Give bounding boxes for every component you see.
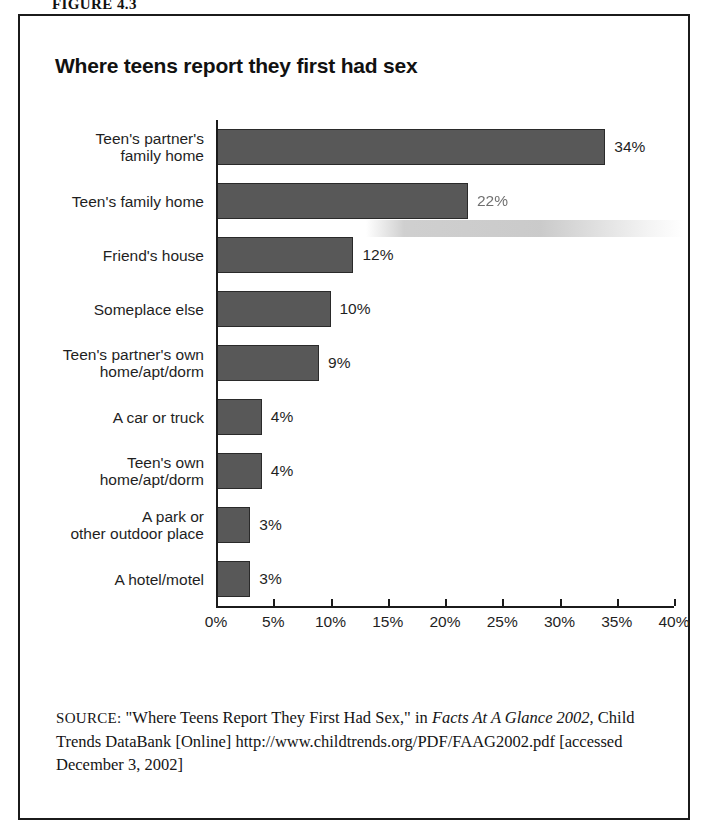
bar-value-label: 10% (340, 300, 371, 318)
y-axis-line (216, 120, 218, 606)
x-axis-line (216, 606, 674, 608)
source-note: SOURCE: "Where Teens Report They First H… (56, 706, 666, 776)
bar-row: Someplace else10% (34, 282, 674, 336)
bar (216, 291, 331, 327)
bar-category-label: A park or other outdoor place (34, 508, 216, 542)
bar (216, 183, 468, 219)
x-axis-tick-label: 40% (658, 613, 689, 631)
x-axis-tick-label: 35% (601, 613, 632, 631)
bar-category-label: A hotel/motel (34, 571, 216, 588)
bar (216, 453, 262, 489)
bar-chart: Teen's partner's family home34%Teen's fa… (34, 120, 674, 640)
bar (216, 399, 262, 435)
bar-row: A park or other outdoor place3% (34, 498, 674, 552)
x-axis-tick (273, 599, 275, 606)
bar (216, 507, 250, 543)
bar-category-label: A car or truck (34, 409, 216, 426)
x-axis-tick-label: 15% (372, 613, 403, 631)
bar-category-label: Teen's family home (34, 193, 216, 210)
bar-value-label: 34% (614, 138, 645, 156)
x-axis: 0%5%10%15%20%25%30%35%40% (216, 606, 674, 662)
x-axis-tick-label: 30% (544, 613, 575, 631)
x-axis-tick (674, 599, 676, 606)
bar-row: Friend's house12% (34, 228, 674, 282)
bar-value-label: 4% (271, 462, 293, 480)
bar (216, 237, 353, 273)
x-axis-tick-label: 0% (205, 613, 227, 631)
x-axis-tick (502, 599, 504, 606)
bar-value-label: 3% (259, 516, 281, 534)
x-axis-tick-label: 20% (429, 613, 460, 631)
bar-rows: Teen's partner's family home34%Teen's fa… (34, 120, 674, 606)
bar-value-label: 12% (362, 246, 393, 264)
source-italic-title: Facts At A Glance 2002, (432, 708, 594, 727)
bar-row: A car or truck4% (34, 390, 674, 444)
bar-row: Teen's partner's own home/apt/dorm9% (34, 336, 674, 390)
x-axis-tick-label: 25% (487, 613, 518, 631)
bar-row: A hotel/motel3% (34, 552, 674, 606)
source-text-1: "Where Teens Report They First Had Sex,"… (121, 708, 431, 727)
x-axis-tick (445, 599, 447, 606)
x-axis-tick (560, 599, 562, 606)
figure-caption: FIGURE 4.3 (52, 0, 137, 13)
bar-category-label: Teen's partner's family home (34, 130, 216, 164)
chart-title: Where teens report they first had sex (55, 54, 418, 78)
bar-zone: 3% (216, 498, 674, 552)
bar-zone: 9% (216, 336, 674, 390)
bar (216, 561, 250, 597)
bar-zone: 4% (216, 444, 674, 498)
bar-category-label: Teen's own home/apt/dorm (34, 454, 216, 488)
bar-category-label: Friend's house (34, 247, 216, 264)
bar-value-label: 9% (328, 354, 350, 372)
source-label: SOURCE: (56, 710, 121, 726)
bar-row: Teen's family home22% (34, 174, 674, 228)
bar (216, 129, 605, 165)
bar-zone: 12% (216, 228, 674, 282)
bar-zone: 10% (216, 282, 674, 336)
x-axis-tick (617, 599, 619, 606)
bar-zone: 4% (216, 390, 674, 444)
bar-zone: 3% (216, 552, 674, 606)
x-axis-tick-label: 10% (315, 613, 346, 631)
x-axis-tick-label: 5% (262, 613, 284, 631)
bar (216, 345, 319, 381)
figure-frame: Where teens report they first had sex Te… (18, 14, 690, 820)
bar-row: Teen's own home/apt/dorm4% (34, 444, 674, 498)
bar-zone: 22% (216, 174, 674, 228)
bar-category-label: Teen's partner's own home/apt/dorm (34, 346, 216, 380)
bar-value-label: 3% (259, 570, 281, 588)
x-axis-tick (216, 599, 218, 606)
bar-value-label: 4% (271, 408, 293, 426)
x-axis-tick (388, 599, 390, 606)
x-axis-tick (331, 599, 333, 606)
bar-category-label: Someplace else (34, 301, 216, 318)
bar-row: Teen's partner's family home34% (34, 120, 674, 174)
bar-value-label: 22% (477, 192, 508, 210)
bar-zone: 34% (216, 120, 674, 174)
